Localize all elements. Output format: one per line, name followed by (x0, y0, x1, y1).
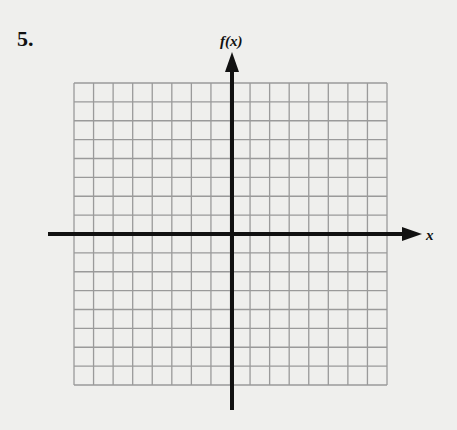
y-axis-arrow-icon (225, 52, 239, 72)
x-axis-label: x (425, 227, 434, 243)
y-axis-label: f(x) (220, 33, 243, 50)
coordinate-grid: x f(x) (0, 0, 457, 430)
x-axis-arrow-icon (402, 227, 422, 241)
